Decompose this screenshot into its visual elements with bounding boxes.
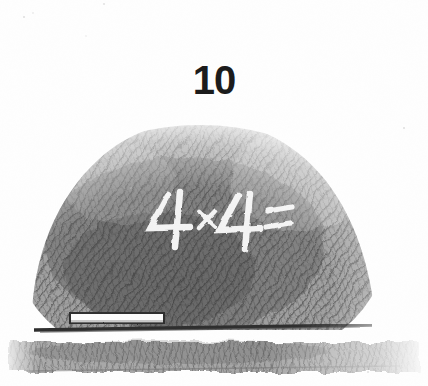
blackboard-sketch [0,0,428,386]
chalk-ledge [10,340,420,372]
chalk-stick [69,312,165,324]
illustration-canvas: 10 [0,0,428,386]
